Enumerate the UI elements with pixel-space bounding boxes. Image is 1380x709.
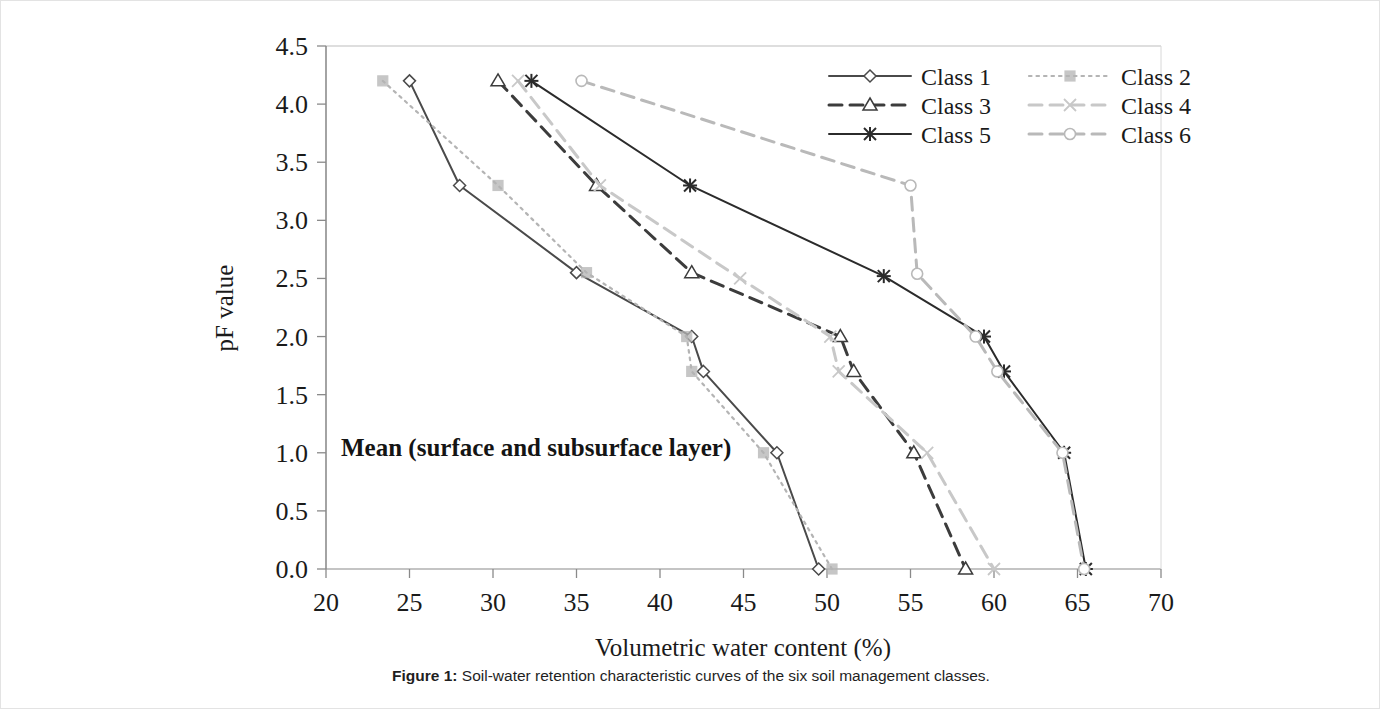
legend-label: Class 1: [921, 64, 991, 90]
y-tick-label: 2.5: [276, 264, 309, 293]
x-tick-label: 55: [898, 588, 924, 617]
data-point-marker-cross: [921, 447, 933, 459]
legend-label: Class 6: [1121, 122, 1191, 148]
y-axis-title: pF value: [211, 265, 238, 352]
data-point-marker-star: [683, 178, 697, 192]
x-tick-label: 25: [397, 588, 423, 617]
legend-label: Class 5: [921, 122, 991, 148]
legend-item-class-2[interactable]: Class 2: [1029, 64, 1191, 90]
data-point-marker-triangle: [491, 74, 505, 86]
data-point-marker-diamond: [813, 563, 825, 575]
x-tick-label: 50: [814, 588, 840, 617]
series-class-4: [512, 75, 1000, 575]
legend-item-class-5[interactable]: Class 5: [829, 122, 991, 148]
data-point-marker-circle: [576, 75, 587, 86]
legend-label: Class 3: [921, 93, 991, 119]
y-tick-label: 0.0: [276, 555, 309, 584]
data-point-marker-triangle: [847, 364, 861, 376]
figure-container: 0.00.51.01.52.02.53.03.54.04.5 202530354…: [0, 0, 1380, 709]
data-point-marker-circle: [905, 180, 916, 191]
legend-item-class-4[interactable]: Class 4: [1029, 93, 1191, 119]
series-line: [383, 81, 832, 569]
data-point-marker-square: [1065, 71, 1075, 81]
legend-item-class-1[interactable]: Class 1: [829, 64, 991, 90]
x-tick-label: 45: [731, 588, 757, 617]
data-point-marker-circle: [912, 268, 923, 279]
y-axis-ticks: [317, 46, 326, 569]
x-tick-label: 40: [647, 588, 673, 617]
series-line: [582, 81, 1085, 569]
x-axis-title: Volumetric water content (%): [595, 634, 891, 661]
x-axis-tick-labels: 2025303540455055606570: [313, 588, 1174, 617]
x-tick-label: 30: [480, 588, 506, 617]
legend-label: Class 4: [1121, 93, 1191, 119]
data-point-marker-star: [524, 74, 538, 88]
y-tick-label: 1.0: [276, 439, 309, 468]
legend-label: Class 2: [1121, 64, 1191, 90]
series-line: [518, 81, 994, 569]
data-series-group: [378, 74, 1093, 576]
series-class-5: [524, 74, 1092, 576]
series-line: [410, 81, 819, 569]
series-class-6: [576, 75, 1090, 574]
data-point-marker-star: [863, 127, 877, 141]
data-point-marker-triangle: [959, 562, 973, 574]
series-class-1: [404, 75, 825, 575]
figure-caption-text: Soil-water retention characteristic curv…: [458, 667, 990, 684]
series-class-2: [378, 76, 837, 574]
data-point-marker-square: [493, 180, 503, 190]
data-point-marker-square: [687, 366, 697, 376]
data-point-marker-circle: [1065, 129, 1076, 140]
y-tick-label: 4.5: [276, 32, 309, 61]
data-point-marker-square: [827, 564, 837, 574]
data-point-marker-diamond: [864, 70, 876, 82]
y-tick-label: 0.5: [276, 497, 309, 526]
data-point-marker-square: [378, 76, 388, 86]
data-point-marker-star: [877, 269, 891, 283]
data-point-marker-circle: [970, 331, 981, 342]
series-class-3: [491, 74, 973, 574]
y-tick-label: 1.5: [276, 381, 309, 410]
legend-item-class-6[interactable]: Class 6: [1029, 122, 1191, 148]
x-tick-label: 60: [981, 588, 1007, 617]
x-axis-ticks: [326, 569, 1161, 578]
figure-caption-label: Figure 1:: [392, 667, 457, 684]
x-tick-label: 20: [313, 588, 339, 617]
data-point-marker-square: [759, 448, 769, 458]
x-tick-label: 35: [564, 588, 590, 617]
data-point-marker-circle: [992, 366, 1003, 377]
data-point-marker-circle: [1079, 564, 1090, 575]
y-tick-label: 3.0: [276, 206, 309, 235]
chart-legend: Class 1Class 2Class 3Class 4Class 5Class…: [829, 64, 1191, 148]
retention-curve-chart: 0.00.51.01.52.02.53.03.54.04.5 202530354…: [1, 1, 1380, 661]
data-point-marker-square: [682, 332, 692, 342]
y-tick-label: 4.0: [276, 90, 309, 119]
figure-caption: Figure 1: Soil-water retention character…: [1, 667, 1380, 685]
data-point-marker-diamond: [404, 75, 416, 87]
y-axis-tick-labels: 0.00.51.01.52.02.53.03.54.04.5: [276, 32, 309, 584]
mean-layer-annotation: Mean (surface and subsurface layer): [341, 434, 731, 462]
x-tick-label: 65: [1065, 588, 1091, 617]
y-tick-label: 2.0: [276, 323, 309, 352]
series-line: [498, 81, 966, 569]
data-point-marker-cross: [512, 75, 524, 87]
legend-item-class-3[interactable]: Class 3: [829, 93, 991, 119]
x-tick-label: 70: [1148, 588, 1174, 617]
data-point-marker-circle: [1057, 447, 1068, 458]
data-point-marker-square: [582, 268, 592, 278]
chart-plot-area: 0.00.51.01.52.02.53.03.54.04.5 202530354…: [1, 1, 1380, 661]
data-point-marker-cross: [734, 272, 746, 284]
plot-frame: [326, 46, 1161, 569]
y-tick-label: 3.5: [276, 148, 309, 177]
